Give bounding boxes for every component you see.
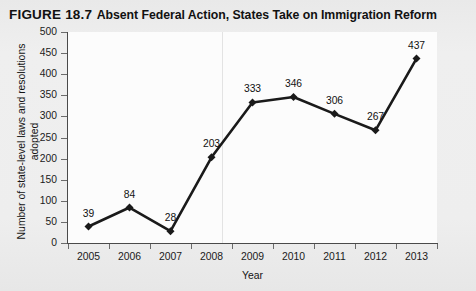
x-axis-tick <box>232 244 233 249</box>
y-axis-tick <box>61 95 67 96</box>
x-axis-tick <box>355 244 356 249</box>
figure-container: FIGURE 18.7 Absent Federal Action, State… <box>0 0 476 291</box>
data-point-label: 346 <box>264 78 324 89</box>
y-axis-tick-label: 350 <box>40 90 57 100</box>
data-point-label: 203 <box>182 138 242 149</box>
y-axis-tick <box>61 159 67 160</box>
y-axis-tick <box>61 53 67 54</box>
x-axis-tick <box>68 244 69 249</box>
data-point-label: 84 <box>100 189 160 200</box>
y-axis-tick <box>61 180 67 181</box>
y-axis-tick-label: 200 <box>40 154 57 164</box>
x-axis-line <box>67 243 438 244</box>
x-axis-tick <box>396 244 397 249</box>
data-point-label: 306 <box>305 95 365 106</box>
data-point-label: 437 <box>387 40 447 51</box>
data-point-label: 39 <box>59 208 119 219</box>
y-axis-tick <box>61 116 67 117</box>
y-axis-tick-label: 250 <box>40 133 57 143</box>
y-axis-tick <box>61 201 67 202</box>
y-axis-tick-label: 400 <box>40 69 57 79</box>
x-axis-tick <box>150 244 151 249</box>
figure-title: FIGURE 18.7 Absent Federal Action, State… <box>9 5 469 23</box>
plot-area <box>68 32 437 243</box>
x-axis-title: Year <box>68 270 437 281</box>
y-axis-tick-label: 450 <box>40 48 57 58</box>
data-point-label: 267 <box>346 111 406 122</box>
y-axis-tick <box>61 74 67 75</box>
y-axis-tick <box>61 222 67 223</box>
x-axis-tick-label: 2013 <box>387 251 447 262</box>
x-axis-tick <box>437 244 438 249</box>
y-axis-title: Number of state-level laws and resolutio… <box>16 37 41 247</box>
y-axis-tick-label: 150 <box>40 175 57 185</box>
y-axis-tick <box>61 243 67 244</box>
y-axis-tick-label: 0 <box>51 238 57 248</box>
x-axis-tick <box>314 244 315 249</box>
x-axis-tick <box>109 244 110 249</box>
y-axis-tick-label: 50 <box>46 217 57 227</box>
x-axis-tick <box>191 244 192 249</box>
y-axis-tick-label: 100 <box>40 196 57 206</box>
y-axis-title-line2: adopted <box>28 123 39 161</box>
y-axis-tick <box>61 138 67 139</box>
figure-caption: Absent Federal Action, States Take on Im… <box>97 8 437 22</box>
y-axis-tick <box>61 32 67 33</box>
x-axis-tick <box>273 244 274 249</box>
y-axis-title-line1: Number of state-level laws and resolutio… <box>16 44 27 240</box>
figure-number: FIGURE 18.7 <box>9 7 92 22</box>
y-axis-tick-label: 500 <box>40 27 57 37</box>
y-axis-tick-label: 300 <box>40 111 57 121</box>
data-point-label: 28 <box>141 212 201 223</box>
